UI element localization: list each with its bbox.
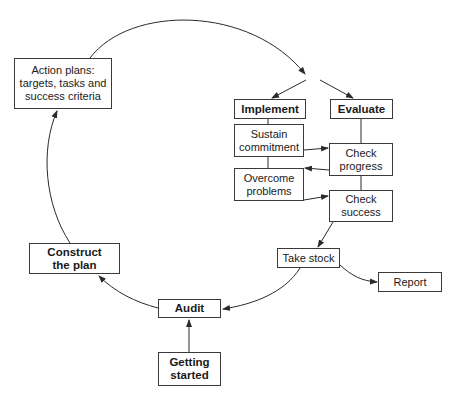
overcome-problems-label: Overcome problems [244,172,295,198]
construct-the-plan-label: Construct the plan [47,246,101,272]
overcome-problems-box: Overcome problems [234,168,304,201]
getting-started-label: Getting started [169,356,209,382]
check-progress-label: Check progress [340,147,383,173]
evaluate-label: Evaluate [338,103,385,116]
check-success-box: Check success [329,190,393,222]
action-plans-box: Action plans: targets, tasks and success… [14,58,112,109]
audit-label: Audit [175,302,204,315]
check-progress-box: Check progress [329,143,393,176]
getting-started-box: Getting started [158,352,221,386]
take-stock-label: Take stock [283,252,335,265]
report-box: Report [378,272,442,292]
action-plans-label: Action plans: targets, tasks and success… [20,64,107,103]
check-success-label: Check success [341,193,381,219]
sustain-commitment-label: Sustain commitment [239,128,299,154]
implement-label: Implement [241,103,299,116]
construct-the-plan-box: Construct the plan [29,243,120,274]
arrow-split-to-implement [272,80,306,98]
sustain-commitment-box: Sustain commitment [234,124,304,157]
take-stock-box: Take stock [277,248,340,268]
arc-action-to-split [90,20,305,74]
implement-box: Implement [234,99,306,119]
audit-box: Audit [158,299,221,318]
report-label: Report [393,276,426,289]
evaluate-box: Evaluate [330,99,393,119]
arrow-split-to-evaluate [320,80,353,98]
